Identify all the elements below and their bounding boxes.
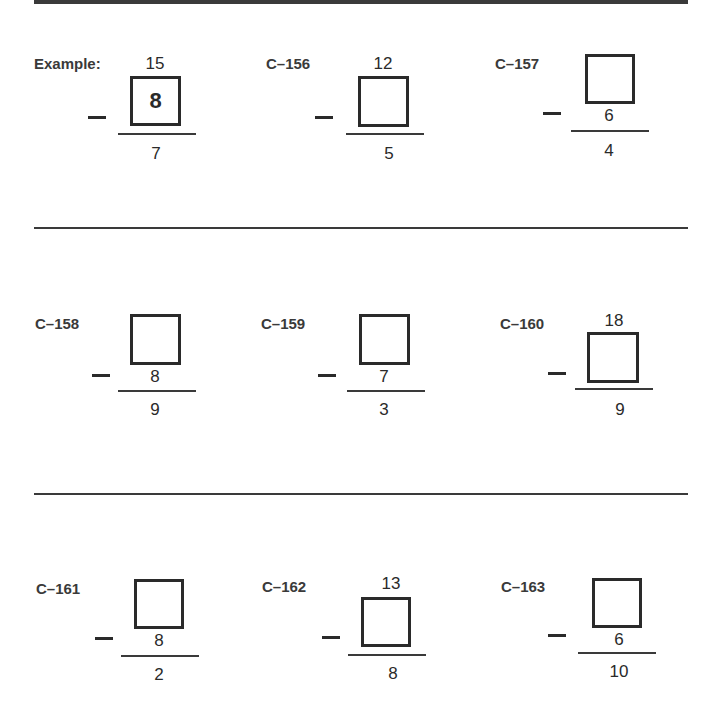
sum-line bbox=[118, 390, 196, 392]
minuend: 18 bbox=[589, 311, 639, 331]
minus-sign bbox=[318, 374, 336, 377]
difference: 5 bbox=[364, 144, 414, 164]
answer-box[interactable] bbox=[361, 597, 411, 647]
difference: 7 bbox=[131, 144, 181, 164]
answer-box[interactable]: 8 bbox=[130, 76, 181, 126]
answer-box[interactable] bbox=[130, 314, 181, 365]
difference: 9 bbox=[595, 400, 645, 420]
problem-label: Example: bbox=[34, 55, 101, 72]
subtrahend: 8 bbox=[130, 367, 180, 387]
minus-sign bbox=[88, 116, 106, 119]
problem-label: C–158 bbox=[35, 315, 79, 332]
answer-box[interactable] bbox=[587, 332, 639, 383]
subtrahend: 6 bbox=[584, 106, 634, 126]
sum-line bbox=[346, 133, 424, 135]
minus-sign bbox=[548, 634, 566, 637]
difference: 3 bbox=[359, 400, 409, 420]
sum-line bbox=[578, 652, 656, 654]
minus-sign bbox=[543, 112, 561, 115]
minus-sign bbox=[322, 636, 340, 639]
subtrahend: 7 bbox=[359, 367, 409, 387]
minus-sign bbox=[315, 116, 333, 119]
divider-1 bbox=[34, 227, 688, 229]
difference: 9 bbox=[130, 400, 180, 420]
answer-box[interactable] bbox=[358, 76, 409, 127]
difference: 2 bbox=[134, 665, 184, 685]
difference: 8 bbox=[368, 664, 418, 684]
minuend: 15 bbox=[130, 54, 180, 74]
answer-box[interactable] bbox=[585, 54, 635, 104]
minuend: 13 bbox=[366, 574, 416, 594]
problem-label: C–159 bbox=[261, 315, 305, 332]
minus-sign bbox=[92, 374, 110, 377]
divider-2 bbox=[34, 493, 688, 495]
minus-sign bbox=[95, 637, 113, 640]
answer-box[interactable] bbox=[134, 579, 184, 629]
problem-label: C–163 bbox=[501, 578, 545, 595]
problem-label: C–160 bbox=[500, 315, 544, 332]
problem-label: C–156 bbox=[266, 55, 310, 72]
minuend: 12 bbox=[358, 54, 408, 74]
difference: 10 bbox=[594, 662, 644, 682]
sum-line bbox=[571, 130, 649, 132]
sum-line bbox=[347, 390, 425, 392]
top-divider bbox=[34, 0, 688, 4]
subtrahend: 8 bbox=[134, 631, 184, 651]
subtrahend: 6 bbox=[594, 630, 644, 650]
sum-line bbox=[118, 133, 196, 135]
answer-box[interactable] bbox=[359, 314, 410, 365]
problem-label: C–157 bbox=[495, 55, 539, 72]
minus-sign bbox=[548, 372, 566, 375]
difference: 4 bbox=[584, 141, 634, 161]
sum-line bbox=[348, 654, 426, 656]
answer-box[interactable] bbox=[592, 578, 642, 628]
sum-line bbox=[575, 388, 653, 390]
sum-line bbox=[121, 655, 199, 657]
problem-label: C–162 bbox=[262, 578, 306, 595]
problem-label: C–161 bbox=[36, 580, 80, 597]
